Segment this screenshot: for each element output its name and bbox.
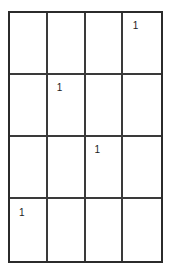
grid-cell[interactable] — [10, 75, 48, 137]
grid-cell[interactable] — [10, 137, 48, 199]
figure-canvas: 1 1 1 1 — [0, 0, 171, 271]
grid-cell[interactable] — [86, 13, 124, 75]
grid-table: 1 1 1 1 — [8, 11, 163, 263]
grid-cell[interactable]: 1 — [86, 137, 124, 199]
grid-cell[interactable] — [86, 75, 124, 137]
grid-cell[interactable] — [48, 13, 86, 75]
cell-value: 1 — [57, 83, 63, 93]
grid-cell[interactable] — [10, 13, 48, 75]
grid-cell[interactable] — [123, 199, 161, 261]
grid-cell[interactable]: 1 — [48, 75, 86, 137]
cell-value: 1 — [94, 145, 100, 155]
cell-value: 1 — [133, 21, 139, 31]
grid-cell[interactable] — [48, 199, 86, 261]
grid-cell[interactable]: 1 — [10, 199, 48, 261]
grid-cell[interactable] — [86, 199, 124, 261]
grid-cell[interactable] — [123, 137, 161, 199]
cell-value: 1 — [19, 208, 25, 218]
grid-cell[interactable]: 1 — [123, 13, 161, 75]
grid-cell[interactable] — [48, 137, 86, 199]
grid-cell[interactable] — [123, 75, 161, 137]
